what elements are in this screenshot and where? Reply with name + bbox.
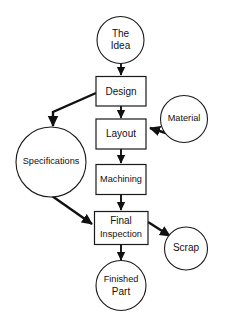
node-design[interactable]: Design	[96, 77, 146, 107]
edge-specifications-to-final-inspection	[52, 196, 92, 224]
final-inspection-label-line1: Final	[110, 215, 132, 226]
finished-part-label-line2: Part	[112, 286, 131, 297]
edge-final-inspection-to-scrap	[148, 222, 170, 236]
edge-design-to-specifications	[53, 93, 96, 126]
the-idea-label-line1: The	[112, 28, 130, 39]
node-layer: The Idea Design Specifications Layout	[16, 17, 208, 311]
node-the-idea[interactable]: The Idea	[97, 17, 144, 64]
layout-label: Layout	[106, 128, 136, 139]
specifications-label: Specifications	[23, 156, 80, 166]
design-label: Design	[105, 86, 136, 97]
machining-label: Machining	[100, 174, 142, 184]
node-final-inspection[interactable]: Final Inspection	[95, 212, 149, 245]
node-layout[interactable]: Layout	[96, 119, 146, 149]
node-specifications[interactable]: Specifications	[16, 127, 86, 197]
node-finished-part[interactable]: Finished Part	[96, 261, 146, 311]
node-scrap[interactable]: Scrap	[165, 227, 208, 270]
node-machining[interactable]: Machining	[96, 165, 146, 195]
final-inspection-label-line2: Inspection	[100, 229, 142, 239]
flowchart-canvas: The Idea Design Specifications Layout	[0, 0, 232, 321]
scrap-label: Scrap	[173, 242, 200, 253]
material-label: Material	[168, 113, 201, 123]
finished-part-label-line1: Finished	[104, 274, 139, 284]
flowchart-diagram: The Idea Design Specifications Layout	[0, 0, 232, 321]
node-material[interactable]: Material	[161, 96, 208, 143]
the-idea-label-line2: Idea	[111, 40, 131, 51]
